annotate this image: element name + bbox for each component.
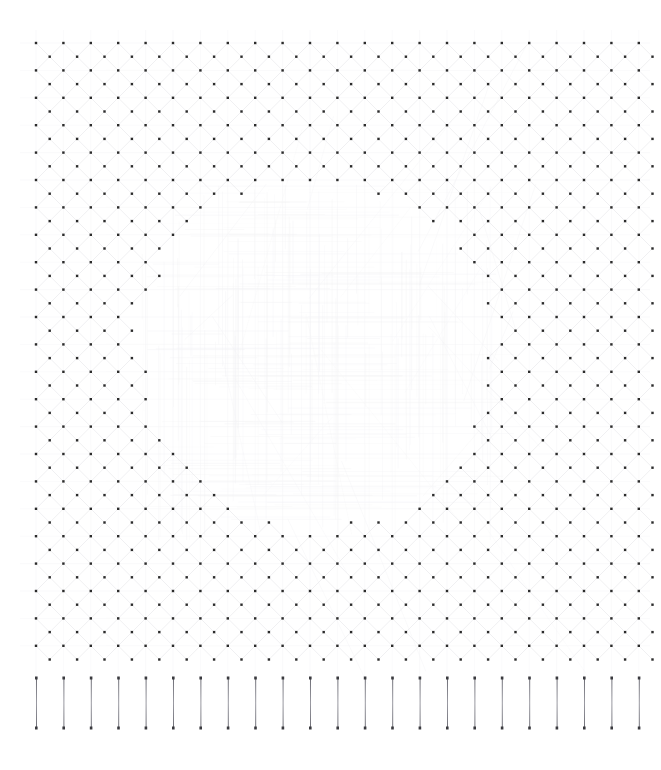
lattice-plot-area (0, 0, 661, 665)
figure-root (0, 0, 661, 770)
vertical-bars-area (0, 665, 661, 770)
